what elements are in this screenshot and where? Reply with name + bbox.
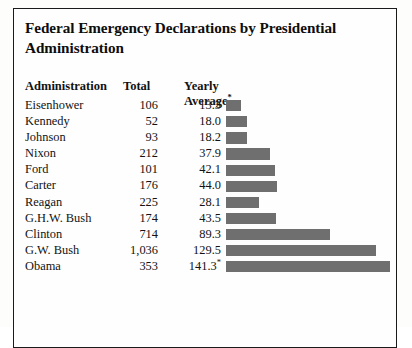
bar-track <box>226 261 401 272</box>
table-row: Eisenhower10613.3 <box>13 98 397 114</box>
cell-administration: Reagan <box>25 195 62 210</box>
data-table: Administration Total Yearly Average* Eis… <box>13 79 397 275</box>
cell-administration: G.W. Bush <box>25 243 79 258</box>
cell-yearly-average-value: 28.1 <box>199 195 221 209</box>
cell-administration: Carter <box>25 178 56 193</box>
cell-administration: Kennedy <box>25 114 70 129</box>
bar-track <box>226 165 401 176</box>
cell-yearly-average-value: 18.0 <box>199 114 221 128</box>
table-row: Johnson9318.2 <box>13 130 397 146</box>
bar-track <box>226 116 401 127</box>
cell-yearly-average: 141.3* <box>143 259 221 274</box>
table-row: Carter17644.0 <box>13 178 397 194</box>
figure-content: Federal Emergency Declarations by Presid… <box>13 8 397 327</box>
cell-yearly-average: 89.3 <box>143 227 221 242</box>
cell-administration: Nixon <box>25 146 56 161</box>
chart-title: Federal Emergency Declarations by Presid… <box>25 18 365 58</box>
bar-track <box>226 245 401 256</box>
table-row: Reagan22528.1 <box>13 195 397 211</box>
bar-yearly-average <box>226 245 376 256</box>
bar-yearly-average <box>226 261 390 272</box>
cell-yearly-average: 42.1 <box>143 162 221 177</box>
table-row: Clinton71489.3 <box>13 227 397 243</box>
table-header-row: Administration Total Yearly Average* <box>13 79 397 98</box>
cell-yearly-average-value: 42.1 <box>199 162 221 176</box>
cell-yearly-average-value: 89.3 <box>199 227 221 241</box>
bar-yearly-average <box>226 197 259 208</box>
bar-track <box>226 229 401 240</box>
cell-yearly-average: 28.1 <box>143 195 221 210</box>
cell-administration: Ford <box>25 162 48 177</box>
table-body: Eisenhower10613.3Kennedy5218.0Johnson931… <box>13 98 397 275</box>
table-row: Ford10142.1 <box>13 162 397 178</box>
cell-administration: Johnson <box>25 130 66 145</box>
cell-yearly-average-value: 44.0 <box>199 178 221 192</box>
cell-administration: Obama <box>25 259 61 274</box>
table-row: Kennedy5218.0 <box>13 114 397 130</box>
bar-yearly-average <box>226 148 270 159</box>
table-row: Obama353141.3* <box>13 259 397 275</box>
bar-yearly-average <box>226 181 277 192</box>
bar-yearly-average <box>226 229 330 240</box>
cell-yearly-average-value: 43.5 <box>199 211 221 225</box>
bar-track <box>226 100 401 111</box>
cell-administration: Clinton <box>25 227 62 242</box>
bar-track <box>226 148 401 159</box>
cell-yearly-average: 43.5 <box>143 211 221 226</box>
table-row: G.W. Bush1,036129.5 <box>13 243 397 259</box>
cell-yearly-average: 18.0 <box>143 114 221 129</box>
cell-yearly-average: 18.2 <box>143 130 221 145</box>
cell-yearly-average: 37.9 <box>143 146 221 161</box>
cell-yearly-average-value: 18.2 <box>199 130 221 144</box>
bar-yearly-average <box>226 100 241 111</box>
cell-yearly-average-value: 37.9 <box>199 146 221 160</box>
cell-yearly-average-value: 13.3 <box>199 98 221 112</box>
bar-yearly-average <box>226 132 247 143</box>
bar-yearly-average <box>226 213 276 224</box>
cell-yearly-average-value: 141.3 <box>189 259 217 273</box>
cell-yearly-average: 44.0 <box>143 178 221 193</box>
cell-yearly-average: 13.3 <box>143 98 221 113</box>
table-row: G.H.W. Bush17443.5 <box>13 211 397 227</box>
table-row: Nixon21237.9 <box>13 146 397 162</box>
cell-yearly-average: 129.5 <box>143 243 221 258</box>
bar-track <box>226 213 401 224</box>
bar-track <box>226 181 401 192</box>
footnote-marker-icon: * <box>217 257 221 267</box>
bar-yearly-average <box>226 116 247 127</box>
cell-yearly-average-value: 129.5 <box>193 243 221 257</box>
bar-track <box>226 132 401 143</box>
bar-yearly-average <box>226 165 275 176</box>
bar-track <box>226 197 401 208</box>
